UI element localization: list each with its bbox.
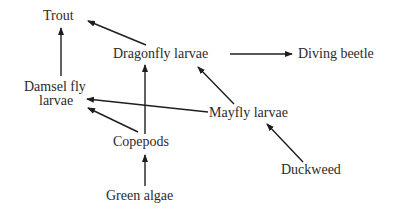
node-damselfly-larvae-line1: Damsel fly: [24, 79, 86, 94]
node-dragonfly-larvae: Dragonfly larvae: [113, 46, 208, 61]
node-diving-beetle: Diving beetle: [298, 46, 374, 61]
node-mayfly-larvae: Mayfly larvae: [209, 105, 288, 120]
node-damselfly-larvae-line2: larvae: [39, 93, 73, 108]
food-web-diagram: Trout Dragonfly larvae Diving beetle Dam…: [0, 0, 401, 216]
arrow-mayfly-to-damselfly: [87, 99, 208, 112]
node-green-algae: Green algae: [106, 188, 173, 203]
node-duckweed: Duckweed: [281, 162, 341, 177]
node-copepods: Copepods: [113, 134, 169, 149]
arrow-dragonfly-to-trout: [88, 21, 146, 45]
arrows-layer: [0, 0, 401, 216]
arrow-duckweed-to-mayfly: [267, 124, 303, 162]
node-trout: Trout: [43, 8, 74, 23]
arrow-mayfly-to-dragonfly: [198, 67, 234, 104]
arrow-copepods-to-damselfly: [88, 108, 138, 132]
